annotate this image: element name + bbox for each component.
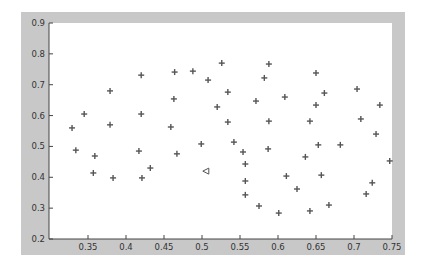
- x-tick-label: 0.75: [383, 242, 402, 252]
- y-tick-label: 0.4: [31, 172, 45, 182]
- y-tick-label: 0.7: [31, 80, 45, 90]
- x-tick-label: 0.55: [231, 242, 250, 252]
- y-tick-label: 0.6: [31, 111, 45, 121]
- y-tick-label: 0.2: [31, 234, 45, 244]
- y-tick-label: 0.5: [31, 141, 45, 151]
- plot-area: [49, 23, 392, 239]
- x-tick-label: 0.6: [271, 242, 285, 252]
- y-tick-label: 0.8: [31, 49, 45, 59]
- x-tick-label: 0.5: [195, 242, 209, 252]
- scatter-plot: 0.350.40.450.50.550.60.650.70.75 0.20.30…: [0, 0, 423, 267]
- x-tick-label: 0.45: [155, 242, 174, 252]
- x-tick-label: 0.7: [347, 242, 361, 252]
- x-tick-label: 0.65: [307, 242, 326, 252]
- y-tick-label: 0.9: [31, 18, 45, 28]
- x-tick-label: 0.35: [79, 242, 98, 252]
- x-tick-label: 0.4: [119, 242, 133, 252]
- y-tick-label: 0.3: [31, 203, 45, 213]
